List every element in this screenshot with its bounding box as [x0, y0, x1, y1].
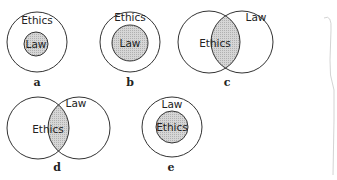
inner-label: Ethics [156, 121, 188, 133]
right-label: Law [66, 97, 87, 109]
outer-label: Law [162, 98, 183, 110]
left-label: Ethics [32, 123, 64, 135]
diagram-a: Ethics Law a [7, 12, 67, 89]
left-label: Ethics [199, 37, 231, 49]
caption: b [126, 76, 134, 89]
inner-label: Law [120, 37, 141, 49]
page-edge-line [324, 17, 334, 175]
venn-diagrams: Ethics Law a Ethics Law b Ethics Law c E… [0, 0, 337, 180]
diagram-d: Ethics Law d [7, 97, 110, 174]
outer-label: Ethics [21, 14, 53, 26]
caption: e [168, 161, 175, 174]
caption: c [224, 76, 231, 89]
diagram-b: Ethics Law b [100, 11, 160, 89]
right-label: Law [246, 11, 267, 23]
caption: a [33, 76, 40, 89]
diagram-c: Ethics Law c [178, 11, 273, 89]
diagram-e: Law Ethics e [142, 97, 202, 174]
outer-label: Ethics [114, 11, 146, 23]
caption: d [53, 161, 61, 174]
inner-label: Law [26, 38, 47, 50]
